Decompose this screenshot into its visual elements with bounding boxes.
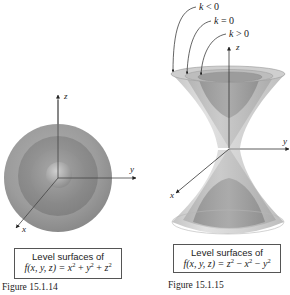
sphere-figure: z y x — [4, 91, 136, 234]
inner-rim — [198, 72, 262, 82]
formula-operator: − — [252, 258, 263, 269]
formula-operator: + — [94, 262, 105, 273]
formula-lhs: f(x, y, z) = — [183, 258, 226, 269]
figure-label-15-1-14: Figure 15.1.14 — [2, 282, 58, 292]
k-zero-arrow — [187, 21, 211, 74]
caption-box-15-1-15: Level surfaces of f(x, y, z) = z2 − x2 −… — [173, 244, 281, 273]
formula-exponent: 2 — [108, 261, 111, 268]
x-axis-label: x — [21, 224, 26, 234]
z-axis-label: z — [235, 42, 240, 52]
hyperboloid-figure: z y x k < 0 k = 0 k > 0 — [169, 1, 289, 234]
figure-label-15-1-15: Figure 15.1.15 — [168, 280, 224, 290]
k-zero-label: k = 0 — [214, 15, 234, 26]
caption-title: Level surfaces of — [15, 251, 121, 262]
caption-formula: f(x, y, z) = z2 − x2 − y2 — [174, 258, 280, 270]
k-negative-label: k < 0 — [199, 1, 219, 12]
formula-lhs: f(x, y, z) = — [24, 262, 67, 273]
caption-formula: f(x, y, z) = x2 + y2 + z2 — [15, 262, 121, 274]
formula-exponent: 2 — [267, 257, 270, 264]
caption-box-15-1-14: Level surfaces of f(x, y, z) = x2 + y2 +… — [14, 248, 122, 279]
formula-operator: − — [234, 258, 245, 269]
z-axis-label: z — [63, 91, 68, 101]
x-axis-label: x — [169, 190, 174, 200]
formula-operator: + — [75, 262, 86, 273]
y-axis-label: y — [282, 136, 287, 146]
k-positive-label: k > 0 — [229, 28, 249, 39]
caption-title: Level surfaces of — [174, 247, 280, 258]
y-axis-label: y — [129, 164, 134, 174]
sphere-core — [46, 162, 72, 188]
